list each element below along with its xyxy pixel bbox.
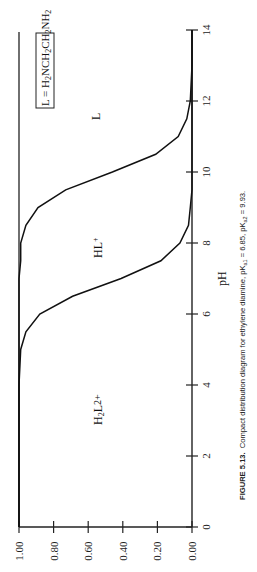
ligand-legend-box: L = H2NCH2CH2NH2 — [36, 10, 54, 108]
region-label-L: L — [89, 113, 103, 120]
ph-tick-label: 8 — [200, 240, 212, 246]
figure-caption: FIGURE 5.13.Compact distribution diagram… — [238, 191, 248, 500]
ph-tick-label: 12 — [200, 96, 212, 107]
fraction-axis: 0.000.200.400.600.801.00 — [13, 521, 198, 561]
svg-text:L = H2NCH2CH2NH2: L = H2NCH2CH2NH2 — [39, 10, 53, 106]
fraction-tick-label: 0.20 — [151, 541, 163, 561]
distribution-chart: 0.000.200.400.600.801.00 02468101214 L =… — [0, 0, 257, 572]
ph-tick-label: 2 — [200, 453, 212, 459]
region-label-H2L: H2L2+ — [91, 394, 106, 425]
fraction-tick-label: 0.00 — [186, 541, 198, 561]
ph-tick-label: 14 — [200, 24, 212, 36]
ph-tick-label: 0 — [200, 524, 212, 530]
ph-tick-label: 6 — [200, 311, 212, 317]
ph-tick-label: 10 — [200, 166, 212, 178]
fraction-tick-label: 1.00 — [13, 541, 25, 561]
fraction-tick-label: 0.80 — [48, 541, 60, 561]
ph-axis-label: pH — [215, 271, 229, 286]
fraction-tick-label: 0.60 — [82, 541, 94, 561]
fraction-tick-label: 0.40 — [117, 541, 129, 561]
region-label-HL: HL+ — [91, 237, 105, 258]
ph-tick-label: 4 — [200, 382, 212, 388]
